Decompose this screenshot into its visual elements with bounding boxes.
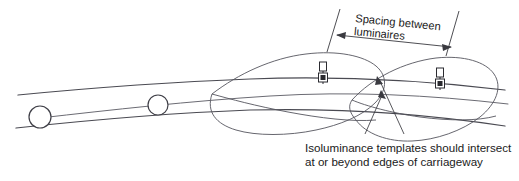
isoluminance-diagram: Spacing between luminaires Isoluminance … (0, 0, 519, 181)
spacing-extension-line-right (446, 11, 459, 56)
spacing-arrowhead-right (442, 44, 452, 51)
road-marker-circle-1 (29, 106, 51, 128)
caption-block: Isoluminance templates should intersect … (305, 141, 512, 168)
luminaire-1-lamp-core (321, 75, 326, 80)
caption-line-2: at or beyond edges of carriageway (305, 155, 483, 168)
caption-leader-arrowhead-right (375, 76, 383, 85)
luminaire-2-head (437, 68, 444, 77)
caption-leader-line-left (365, 93, 383, 134)
road-marker-circle-2 (148, 95, 168, 115)
road-centre-line (40, 94, 508, 118)
spacing-arrowhead-left (336, 32, 346, 39)
diagram-canvas: Spacing between luminaires Isoluminance … (0, 0, 519, 181)
luminaire-symbol-1 (319, 62, 328, 84)
caption-leader-line-right (379, 79, 404, 134)
carriageway-lines (16, 78, 508, 128)
spacing-extension-line-left (327, 9, 340, 52)
luminaire-2-lamp-core (438, 81, 443, 86)
luminaire-1-head (320, 62, 327, 71)
spacing-label-group: Spacing between luminaires (354, 12, 442, 45)
spacing-dimension: Spacing between luminaires (327, 9, 459, 56)
road-far-edge-line (18, 78, 505, 95)
isoluminance-template-2-lower-lobe (352, 100, 496, 120)
luminaire-symbol-2 (436, 68, 445, 90)
caption-line-1: Isoluminance templates should intersect (305, 141, 512, 154)
isoluminance-template-2 (350, 57, 498, 141)
